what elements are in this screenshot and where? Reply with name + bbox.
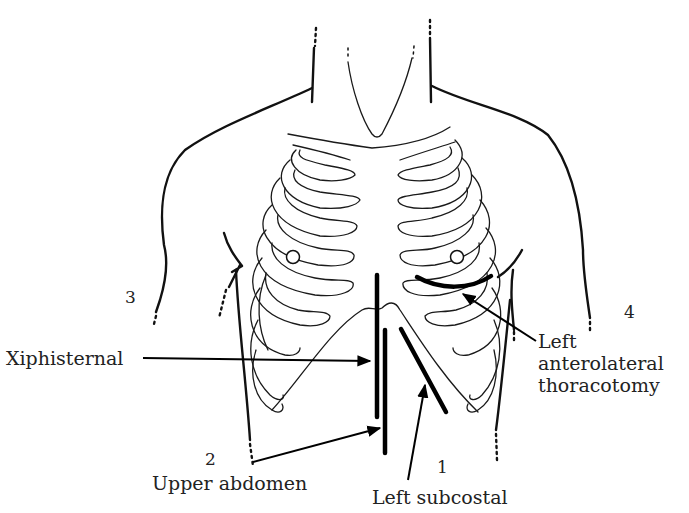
- left-nipple-marker: [451, 251, 464, 264]
- torso-outline: [154, 86, 590, 466]
- right-nipple-marker: [287, 251, 300, 264]
- label-left-anterolateral-line3: thoracotomy: [538, 374, 660, 396]
- label-left-subcostal: Left subcostal: [372, 486, 508, 508]
- number-3: 3: [125, 287, 136, 307]
- left-anterolateral-thoracotomy-incision: [417, 276, 491, 287]
- label-left-anterolateral-line1: Left: [538, 330, 577, 352]
- number-2: 2: [205, 449, 216, 469]
- left-subcostal-incision: [401, 329, 446, 412]
- neck-outline: [312, 20, 431, 137]
- number-1: 1: [437, 457, 448, 477]
- label-upper-abdomen: Upper abdomen: [152, 472, 307, 494]
- label-xiphisternal: Xiphisternal: [6, 347, 123, 369]
- label-left-anterolateral-line2: anterolateral: [538, 352, 664, 374]
- clavicles: [288, 127, 455, 160]
- number-4: 4: [624, 302, 635, 322]
- leader-arrows: [143, 294, 536, 480]
- chest-incision-diagram: Xiphisternal Left anterolateral thoracot…: [0, 0, 689, 513]
